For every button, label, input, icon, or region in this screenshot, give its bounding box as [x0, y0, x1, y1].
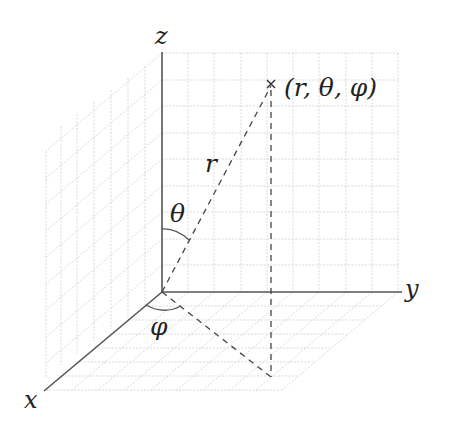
theta-arc	[162, 229, 189, 240]
radius-label: r	[205, 149, 219, 178]
floor-projection-line	[162, 292, 271, 377]
theta-label: θ	[170, 199, 185, 228]
construction-lines	[162, 86, 271, 377]
phi-label: φ	[150, 312, 168, 341]
spherical-coordinates-diagram: z y x (r, θ, φ) r θ φ	[0, 0, 449, 431]
radius-line	[162, 86, 271, 292]
x-axis-label: x	[24, 386, 38, 414]
floor-grid	[46, 292, 398, 390]
y-axis-label: y	[404, 275, 419, 303]
point-label: (r, θ, φ)	[284, 73, 377, 102]
z-axis-label: z	[154, 22, 168, 50]
